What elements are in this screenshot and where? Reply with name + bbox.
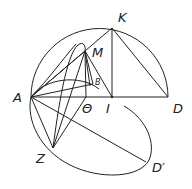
label-theta: Θ [82,101,92,116]
label-B: B [95,78,101,87]
point-I [111,96,113,98]
label-D-prime: D′ [152,160,165,175]
label-K: K [118,10,128,25]
label-D: D [173,101,183,116]
geometry-diagram: A K M B Θ I D Z D′ [0,0,192,189]
label-Z: Z [35,151,46,166]
label-A: A [12,90,22,105]
label-I: I [106,101,110,116]
label-M: M [92,45,103,60]
segment-KD [112,28,168,97]
segment-AZ [31,97,53,148]
